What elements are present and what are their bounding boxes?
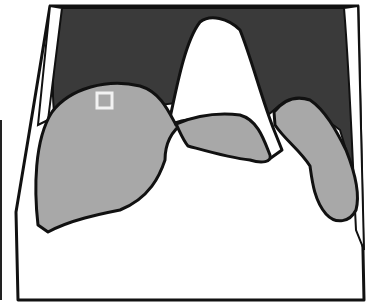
anatomical-diagram xyxy=(0,0,376,308)
